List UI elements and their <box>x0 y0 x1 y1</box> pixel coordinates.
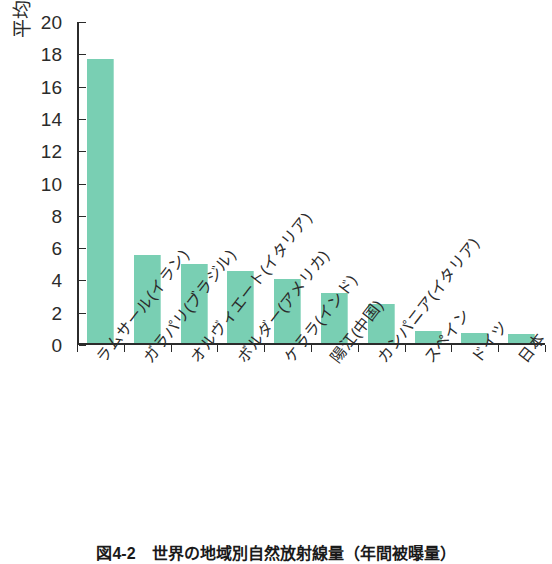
y-tick-6 <box>79 248 86 249</box>
x-tick-3 <box>217 345 218 352</box>
y-tick-label-20: 20 <box>16 13 62 32</box>
bar[interactable] <box>87 59 114 343</box>
y-tick-20 <box>79 22 86 23</box>
y-tick-label-6: 6 <box>16 239 62 258</box>
y-tick-8 <box>79 216 86 217</box>
y-tick-2 <box>79 313 86 314</box>
y-tick-label-12: 12 <box>16 142 62 161</box>
x-tick-0 <box>77 345 78 352</box>
y-tick-label-14: 14 <box>16 109 62 128</box>
y-axis-tick-labels: 02468101214161820 <box>0 22 70 345</box>
y-tick-label-16: 16 <box>16 77 62 96</box>
x-tick-5 <box>311 345 312 352</box>
y-tick-label-10: 10 <box>16 174 62 193</box>
y-tick-label-8: 8 <box>16 206 62 225</box>
y-tick-0 <box>79 345 86 346</box>
x-tick-2 <box>171 345 172 352</box>
y-tick-4 <box>79 280 86 281</box>
y-tick-16 <box>79 87 86 88</box>
y-tick-14 <box>79 119 86 120</box>
x-tick-4 <box>264 345 265 352</box>
y-tick-label-0: 0 <box>16 336 62 355</box>
x-tick-8 <box>451 345 452 352</box>
x-tick-7 <box>405 345 406 352</box>
x-tick-10 <box>545 345 546 352</box>
y-tick-label-18: 18 <box>16 45 62 64</box>
x-tick-1 <box>124 345 125 352</box>
y-tick-10 <box>79 184 86 185</box>
y-tick-label-4: 4 <box>16 271 62 290</box>
y-tick-12 <box>79 151 86 152</box>
x-tick-6 <box>358 345 359 352</box>
x-tick-9 <box>498 345 499 352</box>
y-tick-label-2: 2 <box>16 303 62 322</box>
y-tick-18 <box>79 54 86 55</box>
figure-caption: 図4-2 世界の地域別自然放射線量（年間被曝量） <box>0 540 552 564</box>
